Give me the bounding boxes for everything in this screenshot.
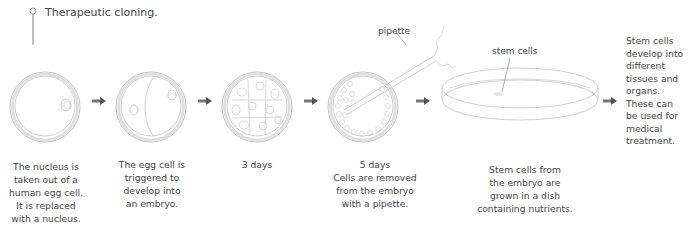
dividing-egg-cell-icon xyxy=(114,70,188,144)
arrow-icon xyxy=(304,97,318,105)
step-4-caption: 5 days Cells are removed from the embryo… xyxy=(325,158,425,210)
blastocyst-with-pipette-icon xyxy=(326,20,456,144)
egg-cell-icon xyxy=(8,70,82,144)
step-3-caption: 3 days xyxy=(220,158,294,171)
arrow-icon xyxy=(92,97,106,105)
pipette-label: pipette xyxy=(378,26,410,36)
arrow-icon xyxy=(198,97,212,105)
pin-marker-icon xyxy=(29,7,37,45)
arrow-icon xyxy=(603,97,617,105)
diagram-title: Therapeutic cloning. xyxy=(45,6,158,19)
step-2-caption: The egg cell is triggered to develop int… xyxy=(112,158,192,210)
embryo-3-days-icon xyxy=(220,70,294,144)
stem-cells-label: stem cells xyxy=(492,46,538,56)
step-1-caption: The nucleus is taken out of a human egg … xyxy=(6,160,86,225)
step-5-caption: Stem cells from the embryo are grown in … xyxy=(470,163,580,215)
arrow-icon xyxy=(416,97,430,105)
step-6-caption: Stem cells develop into different tissue… xyxy=(626,35,691,148)
